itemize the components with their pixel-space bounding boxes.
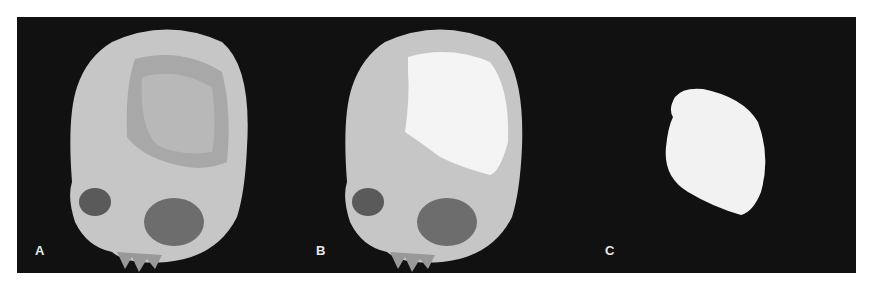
panel-label-a: A xyxy=(35,243,44,258)
panel-a: A xyxy=(17,17,297,273)
skull-with-implant-image xyxy=(300,17,580,273)
panel-label-c: C xyxy=(605,243,614,258)
panel-label-b: B xyxy=(316,243,325,258)
implant-image xyxy=(583,17,856,273)
skull-with-defect-image xyxy=(17,17,297,273)
figure-panel: A B C xyxy=(17,17,856,273)
panel-b: B xyxy=(300,17,580,273)
panel-c: C xyxy=(583,17,856,273)
